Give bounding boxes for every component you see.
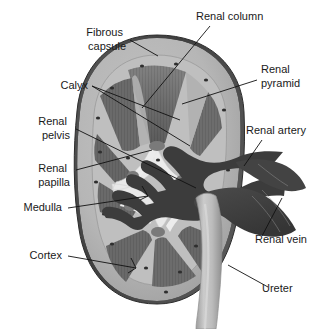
label-cortex: Cortex (30, 249, 63, 261)
renal-papilla (151, 227, 165, 237)
label-renal-artery: Renal artery (246, 124, 306, 136)
label-renal-pelvis: Renal pelvis (38, 115, 70, 141)
label-renal-papilla: Renal papilla (38, 162, 71, 188)
label-renal-column: Renal column (196, 10, 263, 22)
label-calyx: Calyx (60, 79, 88, 91)
label-renal-vein: Renal vein (255, 233, 307, 245)
kidney-anatomy-figure: Fibrous capsule Calyx Renal pelvis Renal… (0, 0, 315, 329)
renal-papilla (149, 141, 165, 151)
label-fibrous-capsule: Fibrous capsule (86, 26, 126, 52)
label-ureter: Ureter (262, 282, 293, 294)
label-medulla: Medulla (23, 201, 62, 213)
label-renal-pyramid: Renal pyramid (261, 63, 300, 89)
kidney-diagram-canvas: Fibrous capsule Calyx Renal pelvis Renal… (0, 0, 315, 329)
